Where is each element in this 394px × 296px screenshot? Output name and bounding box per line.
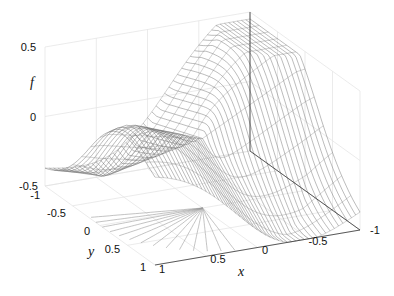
x-tick-label: 1 [159, 263, 165, 275]
x-axis-ticks: 10.50-0.5-1 [159, 224, 380, 275]
surface-plot: 0.50-0.5 -1-0.500.51 10.50-0.5-1 f y x [0, 0, 394, 296]
y-tick-label: 0 [84, 225, 90, 237]
z-tick-label: 0 [30, 111, 36, 123]
x-tick-label: -0.5 [309, 235, 328, 247]
y-tick-label: -0.5 [47, 207, 66, 219]
y-tick-label: 1 [140, 261, 146, 273]
x-tick-label: -1 [370, 224, 380, 236]
x-tick-label: 0 [262, 244, 268, 256]
z-axis-ticks: 0.50-0.5 [19, 41, 38, 192]
y-axis-label: y [86, 244, 95, 259]
z-axis-label: f [30, 75, 36, 90]
x-axis-label: x [237, 264, 245, 279]
x-tick-label: 0.5 [210, 253, 225, 265]
y-axis-ticks: -1-0.500.51 [30, 189, 146, 273]
y-tick-label: 0.5 [105, 243, 120, 255]
z-tick-label: 0.5 [21, 41, 36, 53]
y-tick-label: -1 [30, 189, 40, 201]
